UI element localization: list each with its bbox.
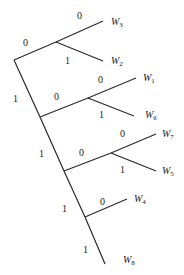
edge-n4-n6 <box>64 171 85 217</box>
bit-label: 1 <box>65 55 70 66</box>
bit-label: 0 <box>98 74 103 85</box>
leaf-w5: W5 <box>162 165 174 178</box>
edge-n6-w4 <box>85 199 127 217</box>
edge-n6-w8 <box>85 217 105 264</box>
bit-label: 0 <box>100 196 105 207</box>
edge-n3-w6 <box>88 98 134 116</box>
edge-n2-n4 <box>40 117 64 171</box>
leaf-w2: W2 <box>111 55 123 68</box>
edge-n1-w3 <box>56 21 103 42</box>
leaf-w8: W8 <box>123 254 135 267</box>
leaf-w7: W7 <box>162 128 174 141</box>
leaf-w3: W3 <box>111 16 123 29</box>
leaf-w1: W1 <box>143 72 155 85</box>
edge-n1-w2 <box>56 42 103 61</box>
bit-label: 0 <box>79 147 84 158</box>
leaf-w4: W4 <box>134 193 146 206</box>
bit-label: 1 <box>39 148 44 159</box>
bit-label: 0 <box>54 91 59 102</box>
edge-n5-w7 <box>111 134 156 153</box>
code-tree-diagram: 0 0 1 1 0 0 1 1 0 0 1 1 0 1 W3 W2 W1 W6 … <box>0 0 184 275</box>
edge-n4-n5 <box>64 153 111 171</box>
bit-label: 0 <box>23 37 28 48</box>
edge-n3-w1 <box>88 78 136 98</box>
bit-label: 1 <box>62 203 67 214</box>
bit-label: 1 <box>99 109 104 120</box>
edge-root-n2 <box>14 60 40 117</box>
bit-label: 0 <box>77 10 82 21</box>
edge-root-n1 <box>14 42 56 60</box>
leaf-w6: W6 <box>145 109 157 122</box>
bit-label: 0 <box>120 128 125 139</box>
bit-label: 1 <box>13 93 18 104</box>
edge-n5-w5 <box>111 153 156 171</box>
edge-n2-n3 <box>40 98 88 117</box>
bit-label: 1 <box>120 164 125 175</box>
bit-label: 1 <box>83 244 88 255</box>
